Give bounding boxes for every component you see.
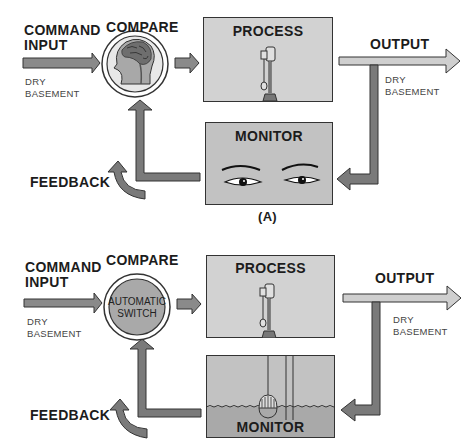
monitor-box-a: MONITOR bbox=[205, 122, 333, 205]
feedback-title-b: FEEDBACK bbox=[30, 408, 110, 423]
feedback-arrow-a bbox=[128, 100, 200, 181]
value-line2: BASEMENT bbox=[393, 326, 448, 338]
value-line1: DRY bbox=[393, 314, 448, 326]
output-arrow-b bbox=[343, 286, 461, 310]
circle-line2: SWITCH bbox=[107, 308, 167, 320]
output-value-b: DRY BASEMENT bbox=[393, 314, 448, 338]
value-line1: DRY bbox=[25, 76, 80, 88]
circle-line1: AUTOMATIC bbox=[107, 296, 167, 308]
command-label: COMMAND bbox=[24, 23, 101, 38]
sump-pump-icon bbox=[203, 17, 333, 102]
monitor-box-b: MONITOR bbox=[206, 355, 335, 438]
eyes-icon bbox=[205, 122, 333, 205]
output-to-monitor-arrow-b bbox=[341, 302, 380, 421]
compare-to-process-arrow-b bbox=[177, 294, 201, 314]
value-line2: BASEMENT bbox=[27, 328, 82, 340]
command-input-value-a: DRY BASEMENT bbox=[25, 76, 80, 100]
value-line1: DRY bbox=[27, 316, 82, 328]
command-input-arrow-b bbox=[24, 293, 102, 313]
output-title-b: OUTPUT bbox=[375, 271, 434, 286]
compare-title-a: COMPARE bbox=[106, 20, 179, 35]
compare-title-b: COMPARE bbox=[106, 253, 179, 268]
automatic-switch-label: AUTOMATIC SWITCH bbox=[107, 296, 167, 320]
output-value-a: DRY BASEMENT bbox=[385, 74, 440, 98]
process-box-a: PROCESS bbox=[203, 17, 333, 102]
value-line2: BASEMENT bbox=[25, 88, 80, 100]
monitor-title-b: MONITOR bbox=[207, 419, 334, 435]
command-input-value-b: DRY BASEMENT bbox=[27, 316, 82, 340]
output-to-monitor-arrow-a bbox=[337, 65, 378, 190]
command-input-arrow-a bbox=[23, 53, 100, 73]
output-arrow-a bbox=[339, 49, 460, 73]
feedback-arrow-b bbox=[130, 339, 201, 417]
compare-to-process-arrow-a bbox=[175, 53, 199, 73]
command-input-title-b: COMMAND INPUT bbox=[25, 260, 102, 290]
caption-a: (A) bbox=[258, 209, 277, 224]
value-line1: DRY bbox=[385, 74, 440, 86]
value-line2: BASEMENT bbox=[385, 86, 440, 98]
command-label: COMMAND bbox=[25, 260, 102, 275]
input-label: INPUT bbox=[25, 275, 102, 290]
process-box-b: PROCESS bbox=[206, 255, 335, 338]
sump-pump-icon bbox=[206, 255, 335, 338]
output-title-a: OUTPUT bbox=[370, 37, 429, 52]
feedback-title-a: FEEDBACK bbox=[30, 175, 110, 190]
command-input-title-a: COMMAND INPUT bbox=[24, 23, 101, 53]
input-label: INPUT bbox=[24, 38, 101, 53]
